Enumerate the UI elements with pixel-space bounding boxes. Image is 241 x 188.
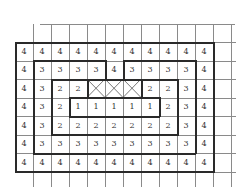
grid-cell: 4 <box>195 61 213 80</box>
grid-cell: 4 <box>87 42 105 61</box>
region-border <box>213 153 215 173</box>
region-border <box>177 79 179 99</box>
cell-value: 2 <box>57 121 62 130</box>
region-border <box>105 153 125 155</box>
region-border <box>51 134 71 136</box>
cell-value: 3 <box>75 65 80 74</box>
region-border <box>87 116 107 118</box>
region-border <box>177 171 197 173</box>
cell-value: 4 <box>201 47 206 56</box>
cell-value: 4 <box>21 65 26 74</box>
grid-cell: 2 <box>159 116 177 135</box>
cell-value: 4 <box>21 47 26 56</box>
grid-cell: 4 <box>15 135 33 154</box>
cell-value: 3 <box>75 139 80 148</box>
region-border <box>195 60 197 80</box>
cell-value: 2 <box>129 121 134 130</box>
cell-value: 4 <box>75 158 80 167</box>
region-border <box>15 97 17 117</box>
grid-cell: 4 <box>123 153 141 172</box>
cell-value: 3 <box>93 139 98 148</box>
region-border <box>195 79 197 99</box>
region-border <box>15 116 17 136</box>
grid-cell: 4 <box>195 135 213 154</box>
region-border <box>51 42 71 44</box>
region-border <box>87 134 107 136</box>
grid-cell: 2 <box>159 98 177 117</box>
region-border <box>51 116 53 136</box>
grid-cell: 4 <box>177 153 195 172</box>
cell-value: 4 <box>201 84 206 93</box>
cell-value: 4 <box>21 84 26 93</box>
cell-value: 4 <box>21 102 26 111</box>
region-border <box>33 134 35 154</box>
region-border <box>33 60 53 62</box>
grid-cell: 2 <box>123 116 141 135</box>
cell-value: 4 <box>201 158 206 167</box>
region-border <box>123 116 143 118</box>
cell-value: 1 <box>129 102 134 111</box>
cell-value: 2 <box>75 84 80 93</box>
cell-value: 3 <box>39 102 44 111</box>
region-border <box>69 116 89 118</box>
cell-value: 3 <box>39 65 44 74</box>
grid-cell: 4 <box>69 42 87 61</box>
region-border <box>177 116 179 136</box>
cell-value: 4 <box>111 158 116 167</box>
region-border <box>123 171 143 173</box>
region-border <box>213 79 215 99</box>
region-border <box>195 116 197 136</box>
cell-value: 4 <box>201 121 206 130</box>
grid-cell: 1 <box>105 98 123 117</box>
grid-cell: 1 <box>87 98 105 117</box>
grid-cell: 4 <box>15 42 33 61</box>
grid-cell: 2 <box>87 116 105 135</box>
grid-cell: 4 <box>195 79 213 98</box>
cell-value: 4 <box>39 158 44 167</box>
cell-value: 3 <box>183 84 188 93</box>
grid-cell: 3 <box>177 116 195 135</box>
cell-value: 2 <box>111 121 116 130</box>
grid-cell: 4 <box>195 153 213 172</box>
grid-cell: 3 <box>159 61 177 80</box>
grid-cell: 4 <box>105 61 123 80</box>
cell-value: 4 <box>39 47 44 56</box>
region-border <box>177 97 179 117</box>
cell-value: 3 <box>57 139 62 148</box>
grid-cell: 4 <box>123 42 141 61</box>
region-border <box>15 60 17 80</box>
grid-line-vertical <box>231 24 232 188</box>
cell-value: 4 <box>57 47 62 56</box>
grid-cell: 3 <box>69 61 87 80</box>
cell-value: 4 <box>111 65 116 74</box>
grid-cell: 1 <box>141 98 159 117</box>
grid-line-horizontal <box>40 24 235 25</box>
cell-value: 3 <box>147 65 152 74</box>
grid-cell: 3 <box>177 61 195 80</box>
grid-cell: 2 <box>141 116 159 135</box>
cell-value: 3 <box>129 139 134 148</box>
region-border <box>213 97 215 117</box>
region-border <box>141 79 143 99</box>
region-border <box>15 42 17 62</box>
region-border <box>159 97 161 117</box>
region-border <box>123 134 143 136</box>
region-border <box>87 171 107 173</box>
grid-cell: 3 <box>141 135 159 154</box>
region-border <box>69 153 89 155</box>
grid-cell: 3 <box>177 98 195 117</box>
cell-value: 4 <box>21 139 26 148</box>
cell-value: 1 <box>147 102 152 111</box>
region-border <box>105 97 125 99</box>
cell-value: 3 <box>183 121 188 130</box>
grid-cell: 3 <box>33 135 51 154</box>
cell-value: 3 <box>39 121 44 130</box>
cross-icon <box>105 79 123 98</box>
region-border <box>141 42 161 44</box>
grid-cell: 4 <box>15 79 33 98</box>
grid-cell: 3 <box>33 61 51 80</box>
region-border <box>69 60 89 62</box>
cell-value: 3 <box>57 65 62 74</box>
cross-icon <box>123 79 141 98</box>
region-border <box>123 60 125 80</box>
